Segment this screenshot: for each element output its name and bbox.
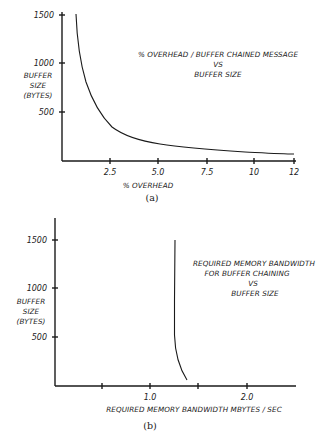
chart-b-title-line: REQUIRED MEMORY BANDWIDTH [193,259,316,268]
chart-a-y-tick-label: 1000 [34,59,54,68]
chart-a-caption: (a) [145,192,158,203]
chart-a: 1500 1000 500 BUFFER SIZE (BYTES) 2.5 5.… [24,11,300,203]
chart-a-y-tick-label: 500 [39,108,54,117]
chart-b-curve [175,240,188,380]
chart-b-title-line: FOR BUFFER CHAINING [204,269,289,278]
chart-b-y-label-line: (BYTES) [17,317,46,326]
chart-b-y-label-line: SIZE [23,307,40,316]
figure: 1500 1000 500 BUFFER SIZE (BYTES) 2.5 5.… [0,0,324,439]
chart-a-x-tick-label: 5.0 [152,168,165,177]
chart-b-caption: (b) [143,420,157,431]
chart-b-y-tick-label: 1500 [27,236,47,245]
chart-b: 1500 1000 500 BUFFER SIZE (BYTES) 1.0 2.… [17,218,316,431]
chart-a-x-tick-label: 2.5 [104,168,117,177]
chart-a-x-label: % OVERHEAD [123,181,174,190]
chart-a-y-label-line: SIZE [30,81,47,90]
chart-b-y-label-line: BUFFER [17,297,46,306]
chart-a-title-line: BUFFER SIZE [194,70,242,79]
chart-a-curve [76,14,294,154]
chart-a-title-line: % OVERHEAD / BUFFER CHAINED MESSAGE [138,50,299,59]
chart-b-y-tick-label: 500 [32,333,47,342]
chart-a-y-label-line: (BYTES) [24,91,53,100]
chart-b-y-tick-label: 1000 [27,284,47,293]
chart-b-x-tick-label: 1.0 [144,393,157,402]
chart-b-x-label: REQUIRED MEMORY BANDWIDTH MBYTES / SEC [106,405,282,414]
chart-a-x-tick-label: 12 [289,168,299,177]
chart-a-title-line: VS [213,60,223,69]
chart-a-x-tick-label: 10 [249,168,259,177]
chart-b-x-tick-label: 2.0 [241,393,254,402]
chart-b-title-line: VS [248,279,258,288]
chart-a-x-tick-label: 7.5 [201,168,214,177]
chart-a-y-label-line: BUFFER [24,71,53,80]
chart-a-y-tick-label: 1500 [34,11,54,20]
chart-b-title-line: BUFFER SIZE [231,289,279,298]
